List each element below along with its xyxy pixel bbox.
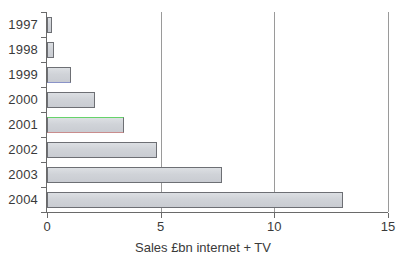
x-axis-tick-label: 0 [27,219,67,234]
y-axis-tick [41,62,47,63]
y-axis-tick [41,87,47,88]
y-axis-tick-label: 2003 [0,167,38,182]
y-axis-tick-label: 1998 [0,42,38,57]
y-axis-tick [41,162,47,163]
x-axis-tick-label: 10 [254,219,294,234]
bar [47,167,222,183]
y-axis-tick-label: 2002 [0,142,38,157]
y-axis-tick-label: 1999 [0,67,38,82]
y-axis-tick-label: 1997 [0,17,38,32]
bar [47,92,95,108]
gridline [274,12,275,212]
bar [47,142,157,158]
x-axis-tick-label: 5 [141,219,181,234]
y-axis-tick-label: 2004 [0,192,38,207]
y-axis-tick-label: 2001 [0,117,38,132]
bar [47,192,343,208]
x-axis-tick [47,213,48,218]
y-axis-tick [41,137,47,138]
x-axis-tick [161,213,162,218]
x-axis-tick [274,213,275,218]
bar [47,67,71,83]
y-axis-tick [41,12,47,13]
x-axis-tick [388,213,389,218]
y-axis-tick [41,112,47,113]
bar [47,17,52,33]
x-axis-line [47,212,388,213]
bar-chart-figure: 19971998199920002001200220032004 051015 … [0,0,406,265]
y-axis-tick [41,187,47,188]
y-axis-tick [41,37,47,38]
gridline [388,12,389,212]
bar [47,117,124,133]
x-axis-tick-label: 15 [368,219,406,234]
y-axis-tick-label: 2000 [0,92,38,107]
x-axis-title: Sales £bn internet + TV [0,240,406,255]
bar [47,42,54,58]
